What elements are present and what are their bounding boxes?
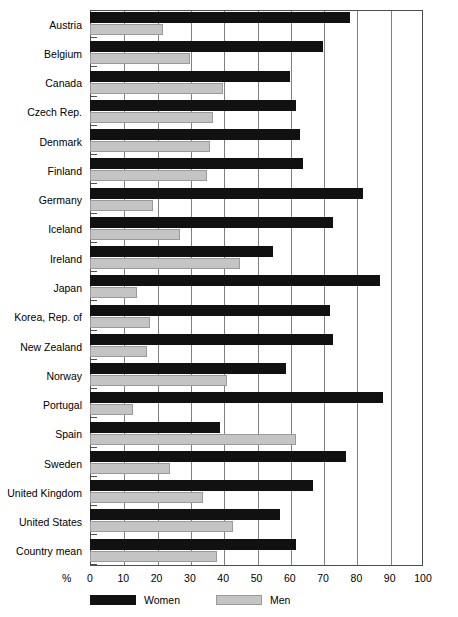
category-label: Ireland xyxy=(0,253,82,265)
bar-group xyxy=(90,390,423,419)
bar-group xyxy=(90,10,423,39)
row-tick xyxy=(90,359,97,360)
x-tick-label: 40 xyxy=(208,572,238,584)
row-tick xyxy=(90,37,97,38)
bar-group xyxy=(90,361,423,390)
bar-men xyxy=(90,229,180,240)
row-tick xyxy=(90,505,97,506)
row-tick xyxy=(90,183,97,184)
horizontal-bar-chart: AustriaBelgiumCanadaCzech Rep.DenmarkFin… xyxy=(0,0,458,617)
bar-group xyxy=(90,39,423,68)
category-label: Sweden xyxy=(0,458,82,470)
row-tick xyxy=(90,96,97,97)
bar-men xyxy=(90,141,210,152)
bar-women xyxy=(90,100,296,111)
category-label: Denmark xyxy=(0,136,82,148)
bar-women xyxy=(90,539,296,550)
bar-women xyxy=(90,217,333,228)
x-tick-label: 80 xyxy=(341,572,371,584)
category-label: Canada xyxy=(0,77,82,89)
legend-item-women: Women xyxy=(90,594,180,606)
bar-group xyxy=(90,186,423,215)
bar-women xyxy=(90,363,286,374)
x-tick-label: 0 xyxy=(75,572,105,584)
bar-women xyxy=(90,334,333,345)
bar-group xyxy=(90,332,423,361)
row-tick xyxy=(90,213,97,214)
bars-layer xyxy=(90,10,423,566)
bar-women xyxy=(90,12,350,23)
category-label: Country mean xyxy=(0,545,82,557)
bar-women xyxy=(90,246,273,257)
row-tick xyxy=(90,534,97,535)
category-label: Korea, Rep. of xyxy=(0,311,82,323)
legend-swatch-men xyxy=(216,595,262,605)
percent-symbol-label: % xyxy=(62,572,71,584)
bar-group xyxy=(90,69,423,98)
bar-group xyxy=(90,537,423,566)
category-label: Finland xyxy=(0,165,82,177)
bar-women xyxy=(90,422,220,433)
row-tick xyxy=(90,476,97,477)
bar-women xyxy=(90,158,303,169)
bar-men xyxy=(90,200,153,211)
x-axis: % 0102030405060708090100 xyxy=(0,566,458,590)
row-tick xyxy=(90,417,97,418)
bar-women xyxy=(90,451,346,462)
row-tick xyxy=(90,154,97,155)
bar-men xyxy=(90,317,150,328)
bar-men xyxy=(90,375,227,386)
bar-group xyxy=(90,98,423,127)
row-tick xyxy=(90,125,97,126)
bar-group xyxy=(90,244,423,273)
bar-men xyxy=(90,170,207,181)
bar-group xyxy=(90,478,423,507)
category-label: Austria xyxy=(0,19,82,31)
category-label: United States xyxy=(0,516,82,528)
bar-women xyxy=(90,392,383,403)
bar-men xyxy=(90,53,190,64)
bar-group xyxy=(90,273,423,302)
category-labels: AustriaBelgiumCanadaCzech Rep.DenmarkFin… xyxy=(0,10,86,566)
bar-men xyxy=(90,83,223,94)
chart-legend: WomenMen xyxy=(90,592,326,608)
legend-swatch-women xyxy=(90,595,136,605)
x-tick-label: 50 xyxy=(242,572,272,584)
bar-women xyxy=(90,305,330,316)
row-tick xyxy=(90,564,97,565)
bar-men xyxy=(90,112,213,123)
bar-group xyxy=(90,507,423,536)
bar-women xyxy=(90,188,363,199)
category-label: Czech Rep. xyxy=(0,106,82,118)
bar-men xyxy=(90,434,296,445)
bar-women xyxy=(90,129,300,140)
category-label: Germany xyxy=(0,194,82,206)
x-tick-label: 10 xyxy=(108,572,138,584)
bar-group xyxy=(90,303,423,332)
bar-men xyxy=(90,521,233,532)
row-tick xyxy=(90,388,97,389)
bar-men xyxy=(90,492,203,503)
bar-men xyxy=(90,346,147,357)
x-tick-label: 20 xyxy=(142,572,172,584)
category-label: Norway xyxy=(0,370,82,382)
x-tick-label: 60 xyxy=(275,572,305,584)
row-tick xyxy=(90,330,97,331)
category-label: Japan xyxy=(0,282,82,294)
row-tick xyxy=(90,300,97,301)
x-tick-label: 70 xyxy=(308,572,338,584)
x-tick-label: 30 xyxy=(175,572,205,584)
bar-group xyxy=(90,449,423,478)
bar-women xyxy=(90,41,323,52)
bar-women xyxy=(90,509,280,520)
legend-item-men: Men xyxy=(216,594,290,606)
category-label: Spain xyxy=(0,428,82,440)
category-label: United Kingdom xyxy=(0,487,82,499)
row-tick xyxy=(90,271,97,272)
legend-label: Women xyxy=(144,594,180,606)
bar-men xyxy=(90,24,163,35)
bar-women xyxy=(90,71,290,82)
x-tick-label: 90 xyxy=(375,572,405,584)
bar-men xyxy=(90,404,133,415)
bar-men xyxy=(90,551,217,562)
